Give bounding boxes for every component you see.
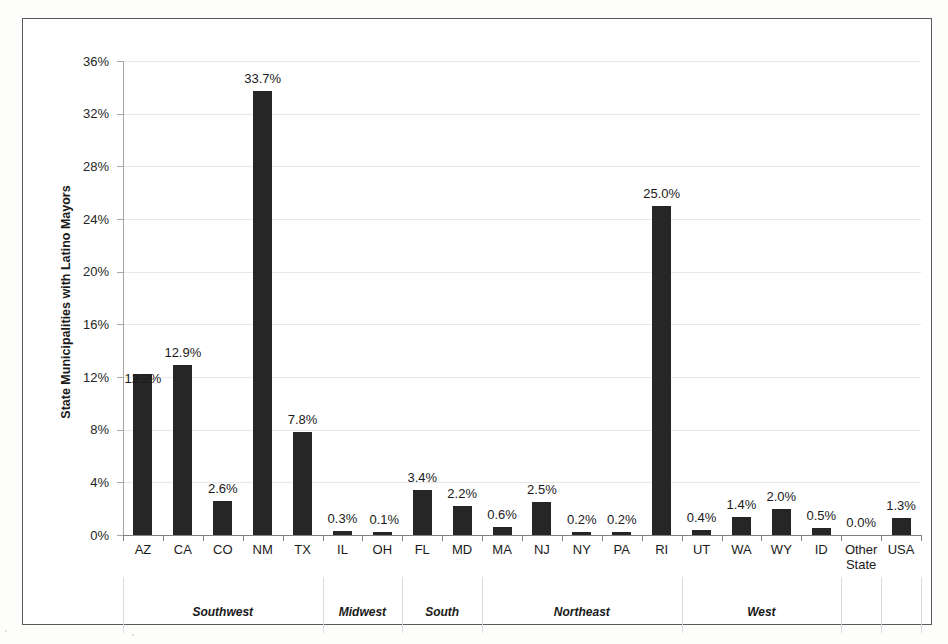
region-label: Southwest [123, 605, 323, 619]
x-tick-label: WY [759, 543, 803, 558]
x-tick-label: NJ [520, 543, 564, 558]
y-tick-label: 16% [63, 318, 109, 331]
x-tick-mark [442, 535, 443, 541]
gridline [123, 114, 921, 115]
y-tick-label: 24% [63, 213, 109, 226]
bar-value-label: 25.0% [634, 187, 690, 200]
bar [493, 527, 512, 535]
bar-value-label: 33.7% [235, 72, 291, 85]
y-tick-mark [117, 61, 123, 62]
x-tick-label: AZ [121, 543, 165, 558]
plot-inner: 0%4%8%12%16%20%24%28%32%36% 12.2%12.9%2.… [123, 61, 921, 535]
y-tick-label: 0% [63, 529, 109, 542]
gridline [123, 61, 921, 62]
bar-value-label: 0.6% [474, 508, 530, 521]
region-label: West [682, 605, 842, 619]
region-separator [881, 577, 882, 633]
y-tick-mark [117, 219, 123, 220]
bar [652, 206, 671, 535]
x-tick-label: FL [400, 543, 444, 558]
x-tick-mark [482, 535, 483, 541]
region-band: SouthwestMidwestSouthNortheastWest [123, 577, 921, 639]
x-tick-label: RI [640, 543, 684, 558]
bar [413, 490, 432, 535]
chart-frame: State Municipalities with Latino Mayors … [22, 18, 932, 625]
y-tick-label: 32% [63, 107, 109, 120]
region-label: Midwest [323, 605, 403, 619]
bar-value-label: 1.3% [873, 499, 929, 512]
y-tick-mark [117, 324, 123, 325]
x-tick-mark [522, 535, 523, 541]
x-tick-label: PA [600, 543, 644, 558]
gridline [123, 377, 921, 378]
scan-speck [5, 630, 7, 632]
x-tick-mark [921, 535, 922, 541]
y-tick-mark [117, 482, 123, 483]
x-tick-label: USA [879, 543, 923, 558]
gridline [123, 324, 921, 325]
bar-value-label: 3.4% [394, 471, 450, 484]
x-tick-mark [123, 535, 124, 541]
gridline [123, 272, 921, 273]
x-tick-label: MA [480, 543, 524, 558]
x-tick-label: TX [281, 543, 325, 558]
x-tick-mark [323, 535, 324, 541]
y-tick-label: 20% [63, 265, 109, 278]
plot-area: 0%4%8%12%16%20%24%28%32%36% 12.2%12.9%2.… [123, 43, 921, 535]
y-tick-mark [117, 114, 123, 115]
x-tick-label: CO [201, 543, 245, 558]
x-tick-label: NM [241, 543, 285, 558]
region-label: South [402, 605, 482, 619]
y-tick-label: 8% [63, 423, 109, 436]
bar [253, 91, 272, 535]
x-tick-mark [722, 535, 723, 541]
x-tick-mark [642, 535, 643, 541]
y-axis-line [123, 61, 124, 535]
y-tick-mark [117, 272, 123, 273]
x-tick-mark [402, 535, 403, 541]
x-tick-mark [362, 535, 363, 541]
y-axis-title: State Municipalities with Latino Mayors [53, 67, 79, 537]
bar-value-label: 0.2% [594, 513, 650, 526]
x-tick-label: UT [680, 543, 724, 558]
bar-value-label: 0.4% [674, 511, 730, 524]
region-label: Northeast [482, 605, 682, 619]
x-tick-label: ID [799, 543, 843, 558]
gridline [123, 166, 921, 167]
bar-value-label: 2.6% [195, 482, 251, 495]
bar-value-label: 12.2% [115, 372, 171, 385]
bar-value-label: 7.8% [275, 413, 331, 426]
x-tick-label: MD [440, 543, 484, 558]
x-tick-mark [163, 535, 164, 541]
bar [812, 528, 831, 535]
bar-value-label: 0.1% [356, 513, 412, 526]
bar-value-label: 0.0% [833, 516, 889, 529]
bar-value-label: 2.5% [514, 483, 570, 496]
gridline [123, 430, 921, 431]
bar-value-label: 12.9% [155, 346, 211, 359]
bar [173, 365, 192, 535]
x-tick-label: OtherState [839, 543, 883, 572]
bar [732, 517, 751, 535]
bar-value-label: 2.0% [753, 490, 809, 503]
bar [133, 374, 152, 535]
bar [293, 432, 312, 535]
x-tick-mark [881, 535, 882, 541]
x-tick-mark [801, 535, 802, 541]
x-axis-ticks: AZCACONMTXILOHFLMDMANJNYPARIUTWAWYIDOthe… [123, 535, 921, 541]
x-tick-label: NY [560, 543, 604, 558]
region-separator [921, 577, 922, 633]
x-tick-mark [203, 535, 204, 541]
region-separator [841, 577, 842, 633]
x-tick-mark [602, 535, 603, 541]
bar [453, 506, 472, 535]
gridline [123, 219, 921, 220]
y-tick-mark [117, 430, 123, 431]
y-tick-label: 12% [63, 371, 109, 384]
y-tick-label: 28% [63, 160, 109, 173]
bar [213, 501, 232, 535]
bar [532, 502, 551, 535]
bar-value-label: 2.2% [434, 487, 490, 500]
x-tick-mark [761, 535, 762, 541]
y-tick-mark [117, 166, 123, 167]
